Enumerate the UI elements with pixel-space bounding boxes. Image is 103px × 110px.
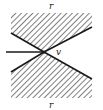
vertex-region-diagram: r v r: [0, 0, 103, 110]
bottom-region-label: r: [49, 100, 54, 110]
top-region-label: r: [49, 1, 54, 11]
vertex-label: v: [56, 47, 61, 57]
bottom-hatched-region: [11, 52, 92, 98]
vertex-point: [43, 51, 46, 54]
